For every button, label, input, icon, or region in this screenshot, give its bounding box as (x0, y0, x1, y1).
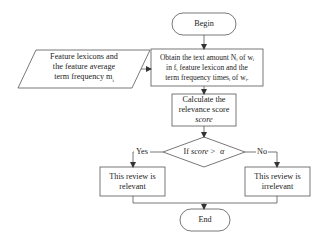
obtain-label: Obtain the text amount Nᵢ of wᵢ in fᵢ fe… (151, 49, 263, 86)
begin-label: Begin (172, 13, 236, 35)
relevant-label: This review is relevant (100, 167, 165, 196)
flowchart-canvas (0, 0, 324, 246)
yes-edge-label: Yes (134, 147, 150, 157)
decision-label: If score > α (163, 147, 245, 157)
end-label: End (180, 209, 230, 231)
merge-line (133, 196, 277, 203)
input-label: Feature lexicons and the feature average… (34, 51, 134, 87)
no-edge-label: No (256, 147, 268, 157)
calculate-label: Calculate the relevance score score (172, 94, 236, 126)
irrelevant-label: This review is irrelevant (245, 167, 310, 196)
